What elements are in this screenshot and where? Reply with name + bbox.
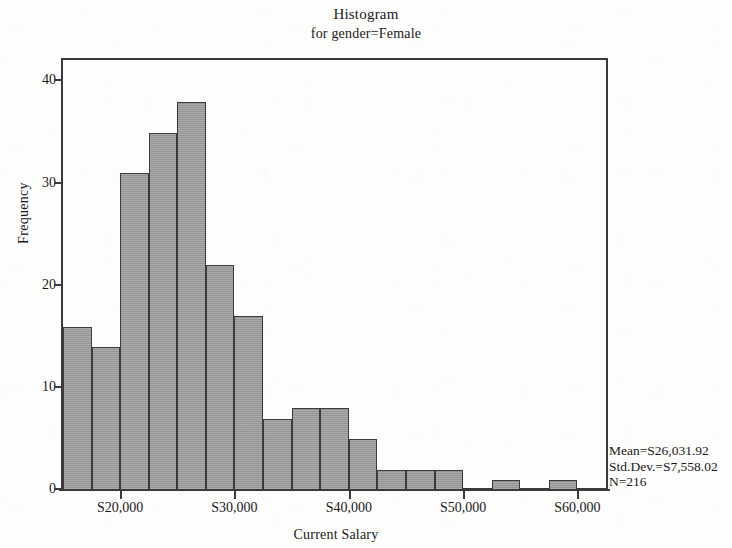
x-axis-tick-mark (349, 490, 351, 499)
histogram-bar (120, 173, 149, 490)
y-axis-tick-label: 10 (22, 380, 56, 394)
x-axis-tick-label: S20,000 (75, 500, 165, 516)
histogram-bar (206, 265, 235, 490)
y-axis-tick-mark (54, 488, 62, 490)
histogram-bar (92, 347, 121, 490)
x-axis-tick-label: S40,000 (304, 500, 394, 516)
x-axis-tick-label: S30,000 (189, 500, 279, 516)
y-axis-title: Frequency (16, 153, 32, 273)
histogram-chart: Histogram for gender=Female Frequency 01… (0, 0, 732, 548)
histogram-bar (292, 408, 321, 490)
x-axis-title: Current Salary (0, 527, 672, 543)
stat-mean: Mean=S26,031.92 (609, 443, 718, 459)
x-axis-tick-mark (120, 490, 122, 499)
x-axis-tick-label: S50,000 (418, 500, 508, 516)
histogram-bar (63, 327, 92, 490)
bars-layer (63, 60, 606, 490)
y-axis-tick-label: 30 (22, 176, 56, 190)
histogram-bar (263, 419, 292, 491)
statistics-annotation: Mean=S26,031.92 Std.Dev.=S7,558.02 N=216 (609, 443, 718, 490)
histogram-bar (377, 470, 406, 490)
stat-std-dev: Std.Dev.=S7,558.02 (609, 459, 718, 475)
histogram-bar (349, 439, 378, 490)
x-axis-tick-mark (463, 490, 465, 499)
histogram-bar (320, 408, 349, 490)
x-axis-tick-mark (234, 490, 236, 499)
y-axis-tick-mark (54, 79, 62, 81)
y-axis-tick-mark (54, 284, 62, 286)
y-axis-tick-mark (54, 386, 62, 388)
histogram-bar (234, 316, 263, 490)
chart-title: Histogram (0, 6, 732, 23)
y-axis-tick-label: 20 (22, 278, 56, 292)
histogram-bar (149, 133, 178, 491)
histogram-bar (406, 470, 435, 490)
y-axis-tick-mark (54, 182, 62, 184)
y-axis-tick-label: 0 (22, 482, 56, 496)
x-axis-tick-mark (577, 490, 579, 499)
histogram-bar (549, 480, 578, 490)
histogram-bar (177, 102, 206, 490)
chart-subtitle: for gender=Female (0, 26, 732, 42)
x-axis-tick-label: S60,000 (532, 500, 622, 516)
stat-n: N=216 (609, 474, 718, 490)
y-axis-tick-label: 40 (22, 73, 56, 87)
histogram-bar (435, 470, 464, 490)
histogram-bar (492, 480, 521, 490)
y-axis: Frequency 010203040 (0, 0, 56, 548)
